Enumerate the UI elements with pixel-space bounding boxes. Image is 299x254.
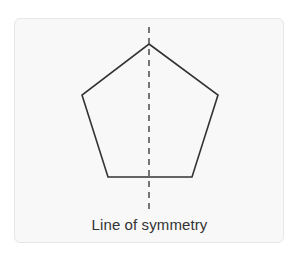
- symmetry-axis-label: Line of symmetry: [0, 216, 299, 233]
- pentagon-shape: [82, 44, 218, 177]
